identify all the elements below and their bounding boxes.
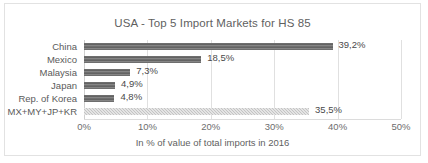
tick-label-20%: 20% [201,121,220,132]
bar-value-label: 4,9% [121,78,143,89]
category-axis: ChinaMexicoMalaysiaJapanRep. of KoreaMX+… [5,40,81,119]
bar-value-label: 7,3% [136,65,158,76]
category-label-china: China [52,40,77,53]
chart-title: USA - Top 5 Import Markets for HS 85 [5,17,420,29]
chart-frame: USA - Top 5 Import Markets for HS 85 Chi… [4,3,421,156]
bar-row[interactable]: 18,5% [84,53,401,66]
bar-china[interactable] [84,43,333,50]
bar-malaysia[interactable] [84,69,130,76]
category-label-mx-my-jp-kr: MX+MY+JP+KR [8,105,77,118]
axis-baseline [84,119,401,120]
plot-area: 39,2%18,5%7,3%4,9%4,8%35,5% [84,40,401,119]
bar-rep-of-korea[interactable] [84,95,114,102]
category-label-rep-of-korea: Rep. of Korea [18,92,77,105]
bar-row[interactable]: 4,8% [84,92,401,105]
bar-value-label: 35,5% [315,104,342,115]
category-label-mexico: Mexico [47,53,77,66]
value-axis-title: In % of value of total imports in 2016 [5,137,420,148]
bar-mexico[interactable] [84,56,201,63]
category-label-malaysia: Malaysia [40,66,78,79]
tick-label-10%: 10% [138,121,157,132]
bar-value-label: 39,2% [339,39,366,50]
tick-label-50%: 50% [391,121,410,132]
bar-value-label: 4,8% [120,91,142,102]
bar-value-label: 18,5% [207,52,234,63]
tick-label-30%: 30% [265,121,284,132]
value-axis-ticks: 0%10%20%30%40%50% [84,121,401,134]
tick-label-40%: 40% [328,121,347,132]
bar-mx-my-jp-kr[interactable] [84,108,309,115]
tick-label-0%: 0% [77,121,91,132]
gridline-50% [401,40,402,119]
bar-japan[interactable] [84,82,115,89]
category-label-japan: Japan [51,79,77,92]
bar-row[interactable]: 39,2% [84,40,401,53]
bar-row[interactable]: 35,5% [84,105,401,118]
